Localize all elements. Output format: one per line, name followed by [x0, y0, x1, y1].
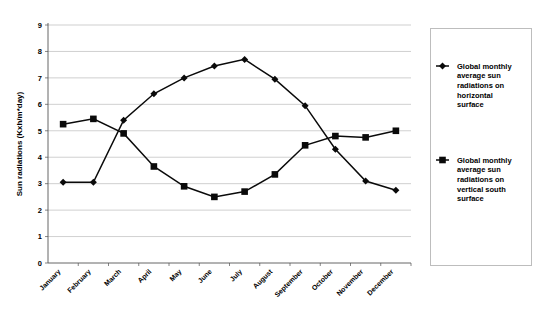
y-axis-tick-label: 2	[38, 206, 42, 215]
x-axis-month-label: April	[136, 268, 153, 285]
legend-entry-1: Global monthlyaverage sunradiations onve…	[436, 156, 512, 203]
y-axis-tick-label: 9	[38, 21, 42, 30]
y-axis-tick-label: 5	[38, 127, 42, 136]
x-axis-month-label: May	[168, 268, 183, 283]
y-axis-title: Sun radiations (Kxh/m*day)	[15, 91, 24, 196]
y-axis-tick-label: 6	[38, 100, 42, 109]
legend-entries: Global monthlyaverage sunradiations onho…	[436, 62, 512, 203]
data-series-group	[60, 56, 400, 200]
data-series-0	[60, 56, 400, 194]
data-point-marker	[211, 62, 218, 69]
chart-container: 0123456789 JanuaryFebruaryMarchAprilMayJ…	[0, 0, 538, 313]
data-point-marker	[60, 121, 67, 128]
data-point-marker	[90, 179, 97, 186]
data-point-marker	[392, 187, 399, 194]
data-point-marker	[120, 130, 127, 137]
x-axis-month-label: July	[228, 268, 244, 284]
data-series-1	[60, 116, 399, 201]
data-point-marker	[181, 183, 188, 190]
y-axis-tick-label: 3	[38, 179, 42, 188]
series-line	[63, 59, 396, 190]
data-point-marker	[60, 179, 67, 186]
x-axis-tick-labels: JanuaryFebruaryMarchAprilMayJuneJulyAugu…	[38, 267, 395, 299]
y-axis-tick-labels: 0123456789	[38, 21, 43, 268]
x-axis-month-label: November	[335, 268, 364, 297]
data-point-marker	[439, 157, 446, 164]
data-point-marker	[211, 194, 218, 201]
data-point-marker	[302, 142, 309, 149]
legend-entry-0: Global monthlyaverage sunradiations onho…	[436, 62, 512, 109]
data-point-marker	[181, 74, 188, 81]
data-point-marker	[362, 134, 369, 141]
x-axis-month-label: March	[103, 268, 123, 288]
x-axis-month-label: June	[197, 268, 214, 285]
legend-label-line: Global monthly	[457, 62, 512, 71]
data-point-marker	[151, 163, 158, 170]
data-point-marker	[332, 133, 339, 140]
x-axis-month-label: August	[252, 267, 275, 290]
data-point-marker	[439, 63, 446, 70]
x-axis-month-label: October	[310, 268, 334, 292]
legend-label-line: surface	[457, 100, 484, 109]
y-axis-tick-label: 8	[38, 47, 42, 56]
x-axis-ticks	[78, 263, 411, 266]
x-axis-month-label: February	[66, 268, 93, 295]
legend-label-line: radiations on	[457, 81, 505, 90]
legend-label-line: horizontal	[457, 91, 493, 100]
y-axis-tick-label: 7	[38, 74, 42, 83]
data-point-marker	[393, 127, 400, 134]
data-point-marker	[241, 188, 248, 195]
x-axis-month-label: September	[273, 268, 304, 299]
x-axis-month-label: December	[366, 268, 395, 297]
gridlines	[48, 25, 411, 237]
legend-label-line: average sun	[457, 71, 501, 80]
x-axis-month-label: January	[38, 268, 63, 293]
legend-label-line: surface	[457, 194, 484, 203]
legend-label-line: vertical south	[457, 185, 506, 194]
legend-label-line: Global monthly	[457, 156, 512, 165]
y-axis-tick-label: 1	[38, 232, 42, 241]
legend-label-line: radiations on	[457, 175, 505, 184]
data-point-marker	[272, 171, 279, 178]
legend-label-line: average sun	[457, 165, 501, 174]
data-point-marker	[90, 116, 97, 123]
sun-radiation-line-chart: 0123456789 JanuaryFebruaryMarchAprilMayJ…	[0, 0, 538, 313]
y-axis-tick-label: 4	[38, 153, 43, 162]
y-axis-tick-label: 0	[38, 259, 42, 268]
